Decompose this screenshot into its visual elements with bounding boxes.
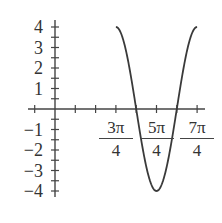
y-tick-label: −4	[15, 182, 43, 200]
x-tick-label-numerator: 5π	[140, 119, 174, 139]
y-tick-label: −3	[15, 162, 43, 180]
x-tick-label: 5π4	[140, 119, 174, 159]
x-tick-label-denominator: 4	[180, 139, 214, 159]
x-tick-label-denominator: 4	[99, 139, 133, 159]
x-tick-label: 3π4	[99, 119, 133, 159]
y-tick-label: 3	[15, 39, 43, 57]
y-tick-label: 2	[15, 59, 43, 77]
x-tick-label-numerator: 7π	[180, 119, 214, 139]
y-tick-label: 4	[15, 18, 43, 36]
x-tick-label: 7π4	[180, 119, 214, 159]
x-tick-label-numerator: 3π	[99, 119, 133, 139]
x-tick-label-denominator: 4	[140, 139, 174, 159]
y-tick-label: −1	[15, 121, 43, 139]
y-tick-label: −2	[15, 141, 43, 159]
y-tick-label: 1	[15, 80, 43, 98]
